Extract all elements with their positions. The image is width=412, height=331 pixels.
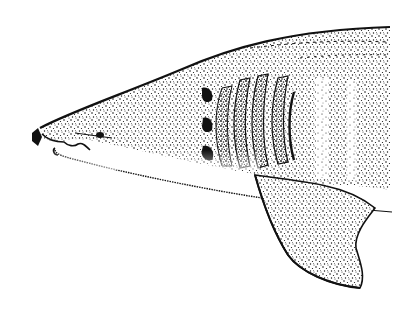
nostril-marker-icon <box>32 128 42 146</box>
gill-pores <box>202 88 214 161</box>
shark-illustration <box>0 0 412 331</box>
belly-fade <box>40 150 260 170</box>
light-band-1 <box>316 78 328 178</box>
illustration-canvas <box>0 0 412 331</box>
light-band-2 <box>346 80 356 180</box>
eye <box>96 132 104 138</box>
